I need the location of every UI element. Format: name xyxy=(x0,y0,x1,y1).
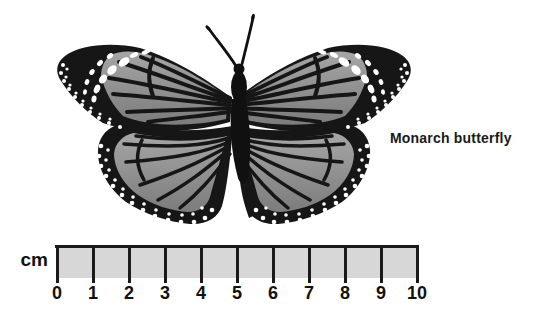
ruler-tick xyxy=(92,245,95,283)
ruler-tick xyxy=(308,245,311,283)
ruler-tick-number: 2 xyxy=(117,283,141,304)
abdomen xyxy=(231,99,251,183)
ruler-tick xyxy=(200,245,203,283)
ruler-tick xyxy=(416,245,419,283)
ruler-tick-number: 8 xyxy=(333,283,357,304)
ruler-tick xyxy=(164,245,167,283)
ruler-tick xyxy=(236,245,239,283)
ruler-tick-number: 6 xyxy=(261,283,285,304)
ruler-tick xyxy=(56,245,59,283)
thorax xyxy=(231,71,247,103)
ruler-tick-number: 5 xyxy=(225,283,249,304)
ruler-tick-number: 7 xyxy=(297,283,321,304)
ruler-tick-number: 9 xyxy=(369,283,393,304)
right-wings xyxy=(235,45,411,225)
ruler-tick xyxy=(272,245,275,283)
ruler-tick-number: 3 xyxy=(153,283,177,304)
ruler-tick xyxy=(128,245,131,283)
ruler-tick-number: 10 xyxy=(405,283,429,304)
ruler-tick xyxy=(380,245,383,283)
ruler-tick-number: 4 xyxy=(189,283,213,304)
left-wings xyxy=(57,45,233,225)
figure-canvas: Monarch butterfly cm 012345678910 xyxy=(0,0,534,321)
ruler-tick-number: 0 xyxy=(45,283,69,304)
ruler-unit-label: cm xyxy=(18,249,48,271)
ruler-tick-number: 1 xyxy=(81,283,105,304)
antennae xyxy=(209,18,253,66)
ruler-tick xyxy=(344,245,347,283)
subject-label: Monarch butterfly xyxy=(390,130,512,146)
